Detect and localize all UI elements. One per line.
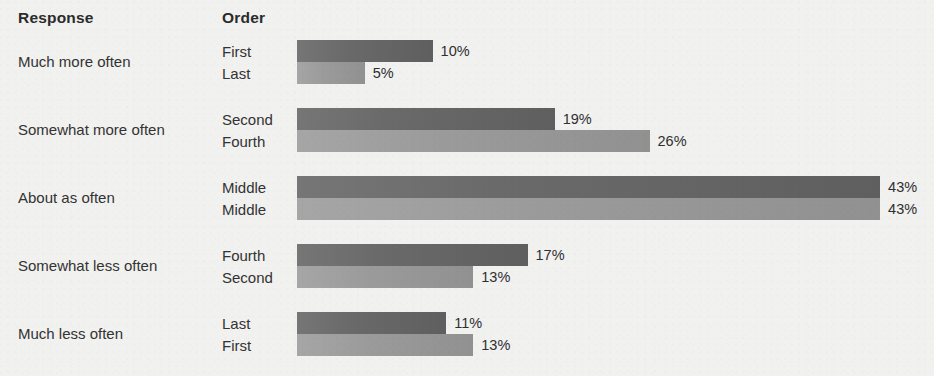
chart-row: Last5% bbox=[0, 62, 934, 84]
order-label: Second bbox=[222, 111, 273, 128]
bar-dark[interactable] bbox=[297, 176, 880, 198]
chart-group: Much less oftenLast11%First13% bbox=[0, 312, 934, 356]
bar-value-label: 43% bbox=[888, 201, 917, 217]
bar-value-label: 13% bbox=[481, 269, 510, 285]
order-label: Last bbox=[222, 315, 250, 332]
chart-group: Somewhat less oftenFourth17%Second13% bbox=[0, 244, 934, 288]
bar-light[interactable] bbox=[297, 130, 650, 152]
bar-chart: Response Order Much more oftenFirst10%La… bbox=[0, 0, 934, 376]
chart-row: Second19% bbox=[0, 108, 934, 130]
chart-row: Fourth17% bbox=[0, 244, 934, 266]
chart-row: First10% bbox=[0, 40, 934, 62]
bar-value-label: 11% bbox=[454, 315, 482, 331]
chart-row: Middle43% bbox=[0, 198, 934, 220]
order-label: Middle bbox=[222, 201, 266, 218]
chart-group: Somewhat more oftenSecond19%Fourth26% bbox=[0, 108, 934, 152]
chart-row: Middle43% bbox=[0, 176, 934, 198]
bar-value-label: 19% bbox=[563, 111, 592, 127]
bar-light[interactable] bbox=[297, 266, 473, 288]
chart-group: Much more oftenFirst10%Last5% bbox=[0, 40, 934, 84]
chart-group: About as oftenMiddle43%Middle43% bbox=[0, 176, 934, 220]
chart-row: Last11% bbox=[0, 312, 934, 334]
bar-value-label: 43% bbox=[888, 179, 917, 195]
order-label: Last bbox=[222, 65, 250, 82]
bar-light[interactable] bbox=[297, 334, 473, 356]
bar-light[interactable] bbox=[297, 198, 880, 220]
bar-value-label: 26% bbox=[658, 133, 687, 149]
order-label: Second bbox=[222, 269, 273, 286]
bar-dark[interactable] bbox=[297, 40, 433, 62]
order-label: Fourth bbox=[222, 247, 265, 264]
bar-dark[interactable] bbox=[297, 108, 555, 130]
order-label: First bbox=[222, 337, 251, 354]
column-header-order: Order bbox=[222, 9, 265, 27]
order-label: Middle bbox=[222, 179, 266, 196]
order-label: Fourth bbox=[222, 133, 265, 150]
order-label: First bbox=[222, 43, 251, 60]
bar-dark[interactable] bbox=[297, 244, 528, 266]
bar-light[interactable] bbox=[297, 62, 365, 84]
chart-row: First13% bbox=[0, 334, 934, 356]
bar-value-label: 10% bbox=[441, 43, 470, 59]
chart-row: Fourth26% bbox=[0, 130, 934, 152]
chart-row: Second13% bbox=[0, 266, 934, 288]
column-header-response: Response bbox=[18, 9, 94, 27]
bar-value-label: 13% bbox=[481, 337, 510, 353]
bar-dark[interactable] bbox=[297, 312, 446, 334]
bar-value-label: 17% bbox=[536, 247, 565, 263]
bar-value-label: 5% bbox=[373, 65, 394, 81]
